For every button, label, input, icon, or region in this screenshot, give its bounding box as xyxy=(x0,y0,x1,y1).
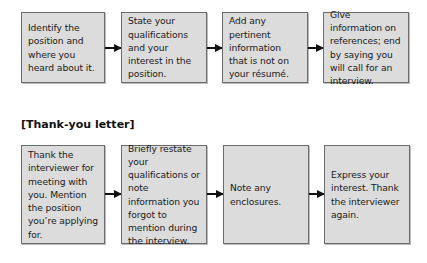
step-text: Note any enclosures. xyxy=(230,181,302,207)
flow-step-identify-position: Identify the position and where you hear… xyxy=(21,12,105,83)
flow-step-add-information: Add any pertinent information that is no… xyxy=(222,12,308,83)
step-text: Express your interest. Thank the intervi… xyxy=(331,168,403,221)
step-text: State your qualifications and your inter… xyxy=(128,14,200,80)
arrow-icon xyxy=(105,193,121,195)
arrow-icon xyxy=(207,193,223,195)
flow-step-restate-qualifications: Briefly restate your qualifications or n… xyxy=(121,145,207,244)
step-text: Briefly restate your qualifications or n… xyxy=(128,142,200,248)
arrow-icon xyxy=(308,47,323,49)
flow-step-give-references: Give information on references; end by s… xyxy=(323,12,409,83)
flow-step-state-qualifications: State your qualifications and your inter… xyxy=(121,12,207,83)
arrow-icon xyxy=(105,47,121,49)
step-text: Identify the position and where you hear… xyxy=(28,21,98,74)
flow-step-thank-interviewer: Thank the interviewer for meeting with y… xyxy=(21,145,105,244)
flow-step-note-enclosures: Note any enclosures. xyxy=(223,145,309,244)
step-text: Add any pertinent information that is no… xyxy=(229,14,301,80)
arrow-icon xyxy=(207,47,222,49)
flow-step-express-interest: Express your interest. Thank the intervi… xyxy=(324,145,410,244)
section-title: [Thank-you letter] xyxy=(21,118,135,131)
step-text: Give information on references; end by s… xyxy=(330,8,402,87)
step-text: Thank the interviewer for meeting with y… xyxy=(28,148,98,240)
arrow-icon xyxy=(309,193,324,195)
